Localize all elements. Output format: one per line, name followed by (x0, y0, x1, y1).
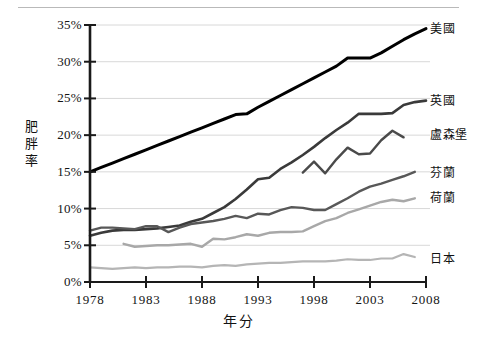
y-tick-label-15: 15% (36, 164, 82, 180)
x-tick-label-1983: 1983 (119, 292, 173, 308)
series-line-4 (124, 198, 415, 246)
gridlines-group (90, 25, 430, 245)
series-line-2 (303, 131, 404, 174)
series-line-1 (90, 101, 426, 236)
x-axis-title: 年分 (0, 310, 477, 330)
y-tick-label-0: 0% (36, 274, 82, 290)
axis-ticks-group (84, 25, 426, 288)
series-label-1: 英國 (430, 91, 455, 108)
series-label-4: 荷蘭 (430, 188, 455, 205)
y-axis-title: 肥 胖 率 (22, 118, 40, 169)
series-label-0: 美國 (430, 19, 455, 36)
series-line-0 (90, 29, 426, 172)
x-tick-label-1993: 1993 (231, 292, 285, 308)
series-label-3: 芬蘭 (430, 163, 455, 180)
x-tick-label-1998: 1998 (287, 292, 341, 308)
x-tick-label-1988: 1988 (175, 292, 229, 308)
y-tick-label-30: 30% (36, 54, 82, 70)
obesity-rate-line-chart: 0%5%10%15%20%25%30%35% 19781983198819931… (0, 0, 477, 344)
series-label-2: 盧森堡 (430, 125, 468, 142)
y-tick-label-35: 35% (36, 17, 82, 33)
x-tick-label-2003: 2003 (343, 292, 397, 308)
series-lines-group (90, 29, 426, 269)
y-tick-label-5: 5% (36, 237, 82, 253)
y-tick-label-10: 10% (36, 201, 82, 217)
x-tick-label-1978: 1978 (63, 292, 117, 308)
x-tick-label-2008: 2008 (399, 292, 453, 308)
y-tick-label-20: 20% (36, 127, 82, 143)
series-line-5 (90, 254, 415, 269)
series-label-5: 日本 (430, 249, 455, 266)
y-tick-label-25: 25% (36, 90, 82, 106)
series-line-3 (90, 172, 415, 232)
